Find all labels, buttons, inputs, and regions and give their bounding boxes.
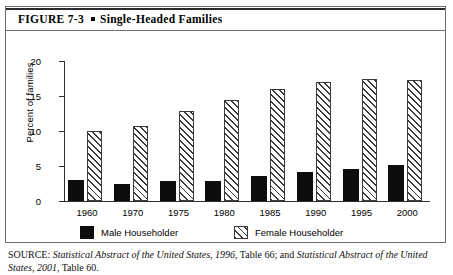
legend-item-female-householder[interactable]: Female Householder [234, 226, 343, 239]
bar-female[interactable] [87, 131, 102, 201]
bar-group [110, 60, 156, 201]
bars-layer [64, 31, 430, 202]
figure-root: FIGURE 7-3Single-Headed Families Percent… [0, 0, 453, 275]
bar-group [64, 60, 110, 201]
page-title: FIGURE 7-3Single-Headed Families [18, 13, 223, 25]
bar-group [339, 60, 385, 201]
legend-label: Female Householder [255, 227, 343, 238]
x-tick-label: 1985 [247, 207, 293, 218]
chart-legend: Male Householder Female Householder [6, 226, 445, 246]
x-tick-label: 1980 [201, 207, 247, 218]
x-tick-label: 1975 [156, 207, 202, 218]
bar-group [201, 60, 247, 201]
figure-box: FIGURE 7-3Single-Headed Families Percent… [5, 6, 446, 243]
bar-group [247, 60, 293, 201]
bar-female[interactable] [270, 89, 285, 201]
bar-male[interactable] [114, 184, 130, 201]
x-tick-label: 1990 [293, 207, 339, 218]
y-tick-label: 10 [17, 127, 41, 136]
chart-plot-area: Percent of families 0 5 10 15 20 [6, 31, 445, 243]
figure-title-text: Single-Headed Families [100, 13, 223, 25]
bar-male[interactable] [205, 181, 221, 201]
source-prefix: SOURCE: [8, 249, 50, 260]
bar-female[interactable] [407, 80, 422, 201]
bar-group [293, 60, 339, 201]
bar-female[interactable] [362, 79, 377, 201]
bar-male[interactable] [297, 172, 313, 201]
bar-male[interactable] [251, 176, 267, 201]
bar-male[interactable] [388, 165, 404, 201]
source-plain-1: Table 66; and [238, 249, 297, 260]
bar-female[interactable] [133, 126, 148, 201]
x-tick-label: 1995 [339, 207, 385, 218]
legend-item-male-householder[interactable]: Male Householder [80, 226, 178, 239]
figure-number: FIGURE 7-3 [18, 13, 84, 25]
legend-swatch-hatch-icon [234, 226, 248, 239]
bar-female[interactable] [316, 82, 331, 201]
bar-male[interactable] [160, 181, 176, 201]
source-citation-1: Statistical Abstract of the United State… [53, 249, 238, 260]
x-tick-label: 2000 [384, 207, 430, 218]
source-note: SOURCE: Statistical Abstract of the Unit… [8, 249, 446, 274]
source-plain-2: Table 60. [59, 262, 98, 273]
bar-female[interactable] [224, 100, 239, 201]
bar-group [156, 60, 202, 201]
figure-title-bar: FIGURE 7-3Single-Headed Families [6, 7, 445, 31]
title-top-rule [6, 8, 445, 10]
y-tick-label: 0 [17, 197, 41, 206]
y-tick-label: 5 [17, 162, 41, 171]
x-tick-label: 1970 [110, 207, 156, 218]
y-tick-label: 20 [17, 57, 41, 66]
legend-label: Male Householder [101, 227, 178, 238]
figure-bullet-icon [91, 17, 95, 21]
bar-group [384, 60, 430, 201]
y-tick-label: 15 [17, 92, 41, 101]
x-tick-label: 1960 [64, 207, 110, 218]
bar-male[interactable] [68, 180, 84, 201]
legend-swatch-solid-icon [80, 226, 94, 239]
bar-male[interactable] [343, 169, 359, 201]
bar-female[interactable] [179, 111, 194, 201]
